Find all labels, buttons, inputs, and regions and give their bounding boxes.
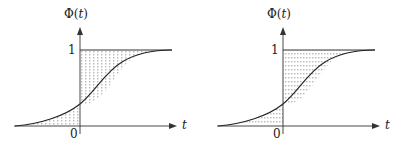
right-y-axis-label: Φ(t) — [267, 8, 291, 20]
right-shaded-region-lower — [233, 104, 283, 125]
figure-canvas — [0, 0, 393, 147]
right-x-axis-label: t — [385, 119, 390, 131]
right-y-arrow-icon — [280, 27, 286, 35]
right-y-tick-one: 1 — [271, 44, 279, 56]
right-x-arrow-icon — [372, 123, 380, 129]
left-x-arrow-icon — [169, 123, 177, 129]
left-y-axis-label: Φ(t) — [64, 8, 88, 20]
left-ylabel-phi: Φ( — [64, 7, 79, 21]
left-y-arrow-icon — [77, 27, 83, 35]
left-shaded-region-upper — [80, 50, 172, 104]
left-shaded-region-lower — [30, 104, 80, 125]
left-y-tick-one: 1 — [68, 44, 76, 56]
right-ylabel-phi: Φ( — [267, 7, 282, 21]
right-x-tick-zero: 0 — [273, 128, 281, 140]
right-ylabel-close: ) — [286, 7, 291, 21]
left-x-axis-label: t — [182, 119, 187, 131]
left-chart — [14, 27, 177, 134]
left-x-tick-zero: 0 — [70, 128, 78, 140]
right-chart — [217, 27, 380, 134]
right-shaded-region-upper — [283, 50, 375, 104]
left-ylabel-close: ) — [83, 7, 88, 21]
